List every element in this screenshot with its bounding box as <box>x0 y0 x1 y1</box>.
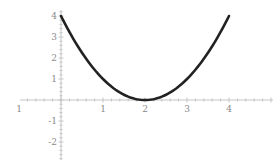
y-tick-label: -2 <box>48 137 57 147</box>
x-tick-label: 3 <box>184 104 190 114</box>
x-tick-label: 2 <box>142 104 148 114</box>
y-tick-label: -1 <box>48 116 57 126</box>
y-tick-label: 4 <box>51 11 57 21</box>
x-tick-label: 1 <box>100 104 106 114</box>
y-tick-label: 2 <box>51 53 57 63</box>
parabola-curve <box>61 16 229 100</box>
y-tick-label: 3 <box>51 32 57 42</box>
axes <box>20 10 273 160</box>
x-tick-label: 1 <box>16 104 22 114</box>
ticks <box>27 12 271 159</box>
plot-area: 112344321-1-2 <box>0 0 280 166</box>
y-tick-label: 1 <box>51 74 57 84</box>
tick-labels: 112344321-1-2 <box>16 11 232 147</box>
x-tick-label: 4 <box>226 104 232 114</box>
